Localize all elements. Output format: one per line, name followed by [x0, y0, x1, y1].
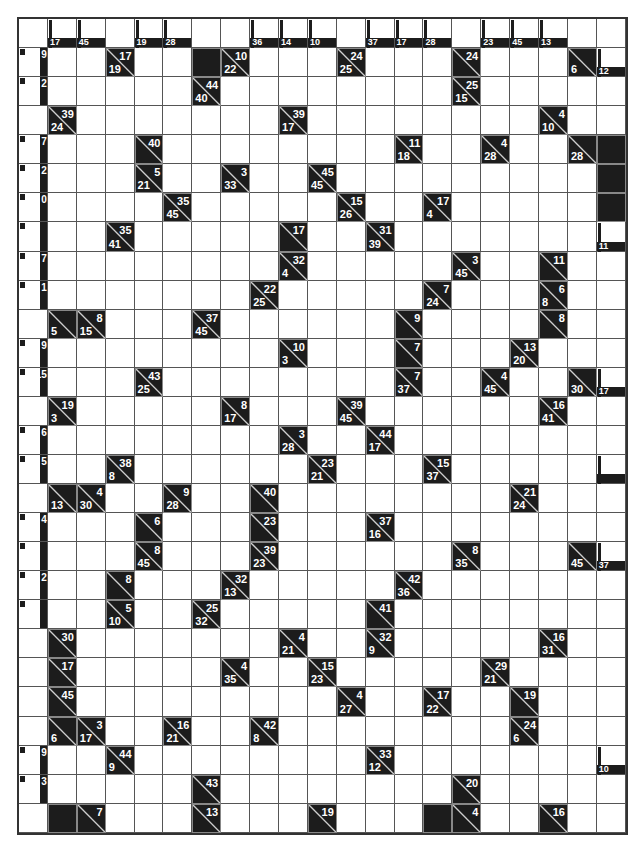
entry-cell[interactable] — [221, 629, 250, 658]
entry-cell[interactable] — [192, 658, 221, 687]
entry-cell[interactable] — [539, 658, 568, 687]
entry-cell[interactable] — [539, 600, 568, 629]
entry-cell[interactable] — [135, 571, 164, 600]
entry-cell[interactable] — [308, 426, 337, 455]
entry-cell[interactable] — [423, 252, 452, 281]
entry-cell[interactable] — [481, 542, 510, 571]
entry-cell[interactable] — [308, 135, 337, 164]
entry-cell[interactable] — [106, 687, 135, 716]
entry-cell[interactable] — [163, 252, 192, 281]
entry-cell[interactable] — [539, 717, 568, 746]
entry-cell[interactable] — [221, 77, 250, 106]
entry-cell[interactable] — [481, 106, 510, 135]
entry-cell[interactable] — [366, 717, 395, 746]
entry-cell[interactable] — [568, 687, 597, 716]
entry-cell[interactable] — [366, 193, 395, 222]
entry-cell[interactable] — [250, 571, 279, 600]
entry-cell[interactable] — [597, 310, 626, 339]
entry-cell[interactable] — [221, 600, 250, 629]
entry-cell[interactable] — [308, 484, 337, 513]
entry-cell[interactable] — [539, 222, 568, 251]
entry-cell[interactable] — [481, 193, 510, 222]
entry-cell[interactable] — [135, 281, 164, 310]
entry-cell[interactable] — [106, 281, 135, 310]
entry-cell[interactable] — [308, 775, 337, 804]
entry-cell[interactable] — [192, 135, 221, 164]
entry-cell[interactable] — [192, 222, 221, 251]
entry-cell[interactable] — [163, 164, 192, 193]
entry-cell[interactable] — [279, 135, 308, 164]
entry-cell[interactable] — [337, 164, 366, 193]
entry-cell[interactable] — [77, 106, 106, 135]
entry-cell[interactable] — [452, 484, 481, 513]
entry-cell[interactable] — [250, 658, 279, 687]
entry-cell[interactable] — [250, 804, 279, 833]
entry-cell[interactable] — [481, 571, 510, 600]
entry-cell[interactable] — [221, 222, 250, 251]
entry-cell[interactable] — [395, 426, 424, 455]
entry-cell[interactable] — [481, 513, 510, 542]
entry-cell[interactable] — [481, 455, 510, 484]
entry-cell[interactable] — [163, 513, 192, 542]
entry-cell[interactable] — [510, 164, 539, 193]
entry-cell[interactable] — [568, 164, 597, 193]
entry-cell[interactable] — [279, 658, 308, 687]
entry-cell[interactable] — [337, 658, 366, 687]
entry-cell[interactable] — [597, 77, 626, 106]
entry-cell[interactable] — [250, 106, 279, 135]
entry-cell[interactable] — [250, 397, 279, 426]
entry-cell[interactable] — [510, 804, 539, 833]
entry-cell[interactable] — [481, 629, 510, 658]
entry-cell[interactable] — [423, 542, 452, 571]
entry-cell[interactable] — [395, 658, 424, 687]
entry-cell[interactable] — [337, 455, 366, 484]
entry-cell[interactable] — [452, 658, 481, 687]
entry-cell[interactable] — [163, 48, 192, 77]
entry-cell[interactable] — [510, 775, 539, 804]
entry-cell[interactable] — [192, 164, 221, 193]
entry-cell[interactable] — [423, 629, 452, 658]
entry-cell[interactable] — [568, 310, 597, 339]
entry-cell[interactable] — [77, 455, 106, 484]
entry-cell[interactable] — [510, 455, 539, 484]
entry-cell[interactable] — [568, 252, 597, 281]
entry-cell[interactable] — [452, 687, 481, 716]
entry-cell[interactable] — [568, 339, 597, 368]
entry-cell[interactable] — [452, 193, 481, 222]
entry-cell[interactable] — [279, 484, 308, 513]
entry-cell[interactable] — [452, 368, 481, 397]
entry-cell[interactable] — [106, 106, 135, 135]
entry-cell[interactable] — [135, 426, 164, 455]
entry-cell[interactable] — [192, 397, 221, 426]
entry-cell[interactable] — [77, 77, 106, 106]
entry-cell[interactable] — [481, 222, 510, 251]
entry-cell[interactable] — [135, 746, 164, 775]
entry-cell[interactable] — [279, 368, 308, 397]
entry-cell[interactable] — [279, 687, 308, 716]
entry-cell[interactable] — [77, 571, 106, 600]
entry-cell[interactable] — [568, 426, 597, 455]
entry-cell[interactable] — [135, 600, 164, 629]
entry-cell[interactable] — [48, 48, 77, 77]
entry-cell[interactable] — [221, 368, 250, 397]
entry-cell[interactable] — [192, 571, 221, 600]
entry-cell[interactable] — [135, 339, 164, 368]
entry-cell[interactable] — [308, 48, 337, 77]
entry-cell[interactable] — [279, 193, 308, 222]
entry-cell[interactable] — [135, 310, 164, 339]
entry-cell[interactable] — [221, 455, 250, 484]
entry-cell[interactable] — [337, 339, 366, 368]
entry-cell[interactable] — [135, 252, 164, 281]
entry-cell[interactable] — [452, 339, 481, 368]
entry-cell[interactable] — [395, 746, 424, 775]
entry-cell[interactable] — [106, 804, 135, 833]
entry-cell[interactable] — [568, 484, 597, 513]
entry-cell[interactable] — [481, 746, 510, 775]
entry-cell[interactable] — [308, 106, 337, 135]
entry-cell[interactable] — [192, 368, 221, 397]
entry-cell[interactable] — [395, 164, 424, 193]
entry-cell[interactable] — [48, 600, 77, 629]
entry-cell[interactable] — [481, 48, 510, 77]
entry-cell[interactable] — [423, 368, 452, 397]
entry-cell[interactable] — [597, 804, 626, 833]
